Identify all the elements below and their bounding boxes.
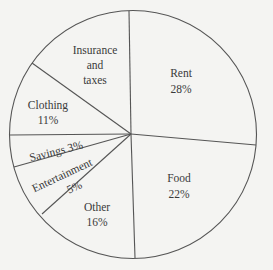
boundary-rent-food bbox=[131, 134, 256, 145]
clothing-percent: 11% bbox=[38, 114, 59, 126]
slice-savings: Savings 3% bbox=[28, 138, 85, 164]
slice-rent: Rent 28% bbox=[170, 67, 193, 95]
boundary-food-other bbox=[131, 134, 135, 258]
insurance-label-line1: Insurance bbox=[73, 44, 118, 56]
boundary-savings-clothing bbox=[10, 134, 131, 135]
clothing-label: Clothing bbox=[28, 99, 69, 112]
slice-food: Food 22% bbox=[167, 172, 191, 200]
other-percent: 16% bbox=[86, 216, 108, 228]
savings-label: Savings 3% bbox=[28, 138, 85, 164]
slice-insurance: Insurance and taxes bbox=[73, 44, 118, 86]
insurance-label-line3: taxes bbox=[83, 74, 107, 86]
insurance-label-line2: and bbox=[87, 59, 104, 71]
pie-chart: Insurance and taxes Rent 28% Clothing 11… bbox=[0, 0, 273, 270]
boundary-insurance-rent bbox=[129, 11, 131, 134]
slice-clothing: Clothing 11% bbox=[28, 99, 69, 126]
entertainment-percent: 5% bbox=[65, 178, 84, 196]
rent-label: Rent bbox=[170, 67, 193, 79]
food-label: Food bbox=[167, 172, 191, 184]
rent-percent: 28% bbox=[170, 83, 192, 95]
other-label: Other bbox=[84, 201, 110, 213]
slice-other: Other 16% bbox=[84, 201, 110, 228]
food-percent: 22% bbox=[168, 188, 190, 200]
